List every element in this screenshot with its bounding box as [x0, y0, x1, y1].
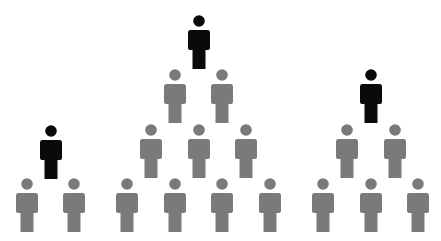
member-person-icon: [139, 124, 163, 180]
member-person-icon: [210, 69, 234, 125]
leader-person-icon: [39, 125, 63, 181]
member-person-icon: [234, 124, 258, 180]
member-person-icon: [406, 178, 430, 234]
member-person-icon: [258, 178, 282, 234]
member-person-icon: [311, 178, 335, 234]
member-person-icon: [163, 69, 187, 125]
member-person-icon: [163, 178, 187, 234]
member-person-icon: [210, 178, 234, 234]
member-person-icon: [335, 124, 359, 180]
member-person-icon: [187, 124, 211, 180]
member-person-icon: [115, 178, 139, 234]
member-person-icon: [383, 124, 407, 180]
member-person-icon: [62, 178, 86, 234]
member-person-icon: [15, 178, 39, 234]
leader-person-icon: [359, 69, 383, 125]
leader-person-icon: [187, 15, 211, 71]
member-person-icon: [359, 178, 383, 234]
